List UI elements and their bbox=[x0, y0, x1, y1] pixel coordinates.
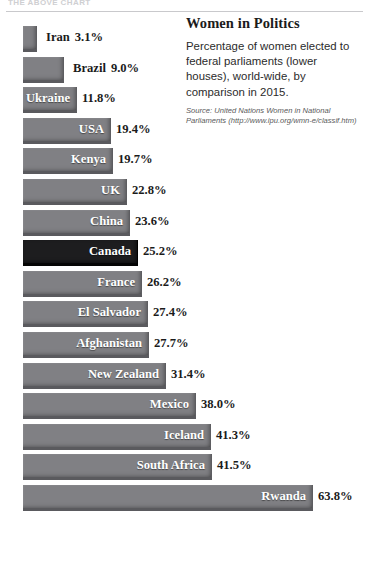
bar-chart: Iran3.1%Brazil9.0%Ukraine11.8%USA19.4%Ke… bbox=[0, 26, 369, 574]
bar-country-label: Brazil bbox=[73, 61, 106, 76]
bar-country-label: New Zealand bbox=[0, 367, 159, 382]
bar-value-label: 9.0% bbox=[111, 61, 139, 76]
bar-country-label: Ukraine bbox=[0, 91, 70, 106]
bar-country-label: Canada bbox=[0, 244, 131, 259]
bar-country-label: Rwanda bbox=[0, 489, 306, 504]
bar-country-label: El Salvador bbox=[0, 305, 141, 320]
bar-country-label: Iran bbox=[46, 30, 70, 45]
bar-value-label: 41.3% bbox=[216, 428, 251, 443]
bar-value-label: 38.0% bbox=[201, 397, 236, 412]
bar-value-label: 31.4% bbox=[171, 367, 206, 382]
bar-country-label: China bbox=[0, 214, 123, 229]
bar-value-label: 19.4% bbox=[116, 122, 151, 137]
bar-country-label: Kenya bbox=[0, 152, 106, 167]
bar-country-label: USA bbox=[0, 122, 104, 137]
bar-value-label: 22.8% bbox=[132, 183, 167, 198]
bar-country-label: Afghanistan bbox=[0, 336, 142, 351]
bar-country-label: Iceland bbox=[0, 428, 204, 443]
bar-value-label: 25.2% bbox=[143, 244, 178, 259]
cropped-header-text: THE ABOVE CHART bbox=[8, 0, 91, 7]
bar-country-label: Mexico bbox=[0, 397, 189, 412]
bar-country-label: France bbox=[0, 275, 135, 290]
bar-value-label: 23.6% bbox=[135, 214, 170, 229]
bar-country-label: South Africa bbox=[0, 458, 205, 473]
bar-brazil bbox=[23, 57, 64, 83]
bar-value-label: 41.5% bbox=[217, 458, 252, 473]
bar-value-label: 63.8% bbox=[318, 489, 353, 504]
bar-value-label: 26.2% bbox=[147, 275, 182, 290]
bar-value-label: 27.7% bbox=[154, 336, 189, 351]
bar-iran bbox=[23, 26, 37, 52]
bar-value-label: 11.8% bbox=[82, 91, 116, 106]
bar-country-label: UK bbox=[0, 183, 120, 198]
bar-value-label: 19.7% bbox=[118, 152, 153, 167]
header-divider-rule bbox=[6, 11, 363, 12]
bar-value-label: 3.1% bbox=[75, 30, 103, 45]
bar-value-label: 27.4% bbox=[153, 305, 188, 320]
